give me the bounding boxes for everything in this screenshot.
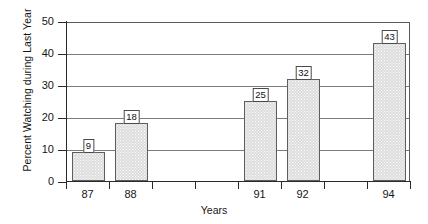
y-axis-tick-label: 50 [26, 15, 54, 27]
y-axis-tick-label: 20 [26, 111, 54, 123]
bar-chart: Percent Watching during Last Year Years … [0, 0, 428, 224]
bar [373, 43, 406, 181]
x-axis-tick-label: 94 [369, 188, 409, 200]
x-axis-tick [152, 182, 153, 189]
y-axis-tick [58, 86, 66, 87]
x-axis-tick [410, 182, 411, 189]
y-axis-tick [58, 22, 66, 23]
bar [287, 79, 320, 181]
y-axis-line [66, 21, 67, 183]
x-axis-tick-label: 88 [111, 188, 151, 200]
x-axis-tick [195, 182, 196, 189]
bar-value-label: 43 [381, 30, 398, 44]
bar-value-label: 32 [295, 66, 312, 80]
bar [72, 152, 105, 181]
bar-value-label: 9 [83, 139, 94, 153]
x-axis-title: Years [0, 204, 428, 216]
bar-value-label: 18 [123, 110, 140, 124]
gridline [67, 118, 409, 119]
plot-area: 918253243 [66, 22, 410, 182]
y-axis-tick [58, 182, 66, 183]
y-axis-tick [58, 118, 66, 119]
gridline [67, 86, 409, 87]
x-axis-tick-label: 92 [283, 188, 323, 200]
x-axis-tick [324, 182, 325, 189]
y-axis-tick-label: 0 [26, 175, 54, 187]
bar-value-label: 25 [252, 88, 269, 102]
x-axis-tick-label: 91 [240, 188, 280, 200]
bar [244, 101, 277, 181]
bar [115, 123, 148, 181]
x-axis-tick-label: 87 [68, 188, 108, 200]
y-axis-tick-label: 40 [26, 47, 54, 59]
y-axis-tick [58, 54, 66, 55]
gridline [67, 54, 409, 55]
y-axis-tick-label: 30 [26, 79, 54, 91]
y-axis-tick [58, 150, 66, 151]
y-axis-tick-label: 10 [26, 143, 54, 155]
